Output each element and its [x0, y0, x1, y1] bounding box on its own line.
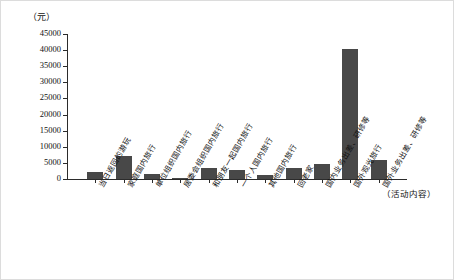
y-axis-tick-label: 15000 — [40, 125, 61, 136]
y-axis-tick-label: 45000 — [40, 28, 61, 39]
y-axis-tick-mark — [63, 66, 67, 67]
y-axis-tick-label: 30000 — [40, 76, 61, 87]
y-axis-tick-mark — [63, 82, 67, 83]
y-axis-tick-label: 5000 — [44, 157, 61, 168]
x-axis-tick-mark — [265, 179, 266, 183]
y-axis-tick-mark — [63, 98, 67, 99]
x-axis-tick-mark — [124, 179, 125, 183]
y-axis-tick-mark — [63, 131, 67, 132]
y-axis-unit-label: （元） — [28, 10, 55, 23]
y-axis-tick-mark — [63, 147, 67, 148]
y-axis-line — [67, 34, 68, 179]
x-axis-tick-mark — [379, 179, 380, 183]
x-axis-tick-mark — [237, 179, 238, 183]
y-axis-tick-label: 25000 — [40, 92, 61, 103]
x-axis-tick-mark — [152, 179, 153, 183]
y-axis-tick-mark — [63, 50, 67, 51]
y-axis-tick-mark — [63, 179, 67, 180]
x-axis-tick-mark — [322, 179, 323, 183]
x-axis-tick-mark — [180, 179, 181, 183]
y-axis-tick-mark — [63, 34, 67, 35]
y-axis-tick-label: 0 — [57, 173, 61, 184]
x-axis-caption-label: （活动内容） — [382, 187, 436, 199]
y-axis-tick-label: 20000 — [40, 109, 61, 120]
x-axis-tick-mark — [350, 179, 351, 183]
y-axis-tick-label: 35000 — [40, 60, 61, 71]
x-axis-tick-mark — [95, 179, 96, 183]
x-axis-tick-mark — [209, 179, 210, 183]
bar-chart-figure: （元） 050001000015000200002500030000350004… — [0, 0, 454, 280]
x-axis-tick-mark — [294, 179, 295, 183]
y-axis-tick-label: 10000 — [40, 141, 61, 152]
y-axis-tick-mark — [63, 163, 67, 164]
y-axis-tick-mark — [63, 115, 67, 116]
y-axis-tick-label: 40000 — [40, 44, 61, 55]
